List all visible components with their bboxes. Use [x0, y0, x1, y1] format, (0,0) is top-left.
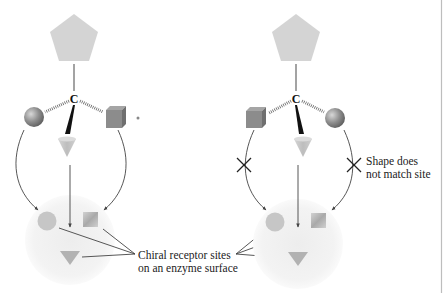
- x-mark-icon: [237, 158, 251, 172]
- mismatch-label-line2: not match site: [366, 168, 431, 180]
- receptor-label-line1: Chiral receptor sites: [138, 249, 231, 262]
- mismatch-label-line1: Shape does: [366, 155, 419, 168]
- pentagon-group-right: [272, 14, 320, 61]
- hashed-bond-right-right: [302, 101, 324, 112]
- chirality-diagram: C: [0, 0, 445, 293]
- left-molecule: C: [16, 14, 140, 285]
- small-dot: [137, 117, 140, 120]
- receptor-label-line2: on an enzyme surface: [138, 262, 238, 275]
- sphere-group: [24, 107, 44, 127]
- site-square-left: [83, 212, 98, 227]
- cone-group-right: [294, 137, 312, 158]
- wedge-bond-right: [295, 105, 304, 134]
- site-square-right: [311, 213, 326, 228]
- cube-group-right: [246, 107, 266, 128]
- hashed-bond-left: [45, 101, 69, 112]
- cube-group: [106, 106, 126, 128]
- wedge-bond: [65, 105, 75, 134]
- arrow-cube-to-site: [104, 130, 126, 210]
- carbon-atom-left: C: [70, 92, 79, 106]
- carbon-atom-right: C: [292, 92, 301, 106]
- pentagon-group: [50, 14, 98, 61]
- cone-group: [58, 137, 76, 158]
- arrow-sphere-to-site: [16, 130, 38, 210]
- site-circle-right: [266, 213, 285, 232]
- hashed-bond-right: [80, 101, 103, 112]
- right-molecule: C: [237, 14, 361, 289]
- sphere-group-right: [325, 108, 345, 128]
- x-mark-icon: [347, 158, 361, 172]
- hashed-bond-left-right: [269, 101, 291, 113]
- site-circle-left: [38, 212, 57, 231]
